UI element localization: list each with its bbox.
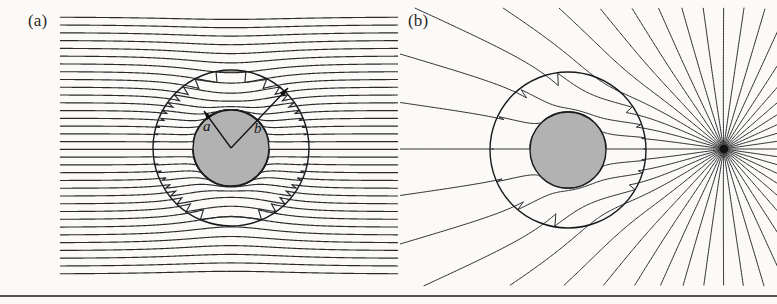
point-charge-dot xyxy=(720,145,728,153)
field-line xyxy=(60,263,397,266)
field-line xyxy=(60,197,397,203)
panel-b-point-charge xyxy=(720,145,728,153)
field-line xyxy=(60,87,397,95)
field-ray xyxy=(604,150,723,285)
field-ray xyxy=(725,150,777,184)
panel-b xyxy=(398,8,777,286)
field-ray xyxy=(724,64,777,148)
field-ray xyxy=(725,114,777,148)
field-line xyxy=(60,64,397,73)
field-ray xyxy=(724,150,777,234)
field-line xyxy=(60,33,397,36)
panel-b-label: (b) xyxy=(408,11,428,31)
field-line xyxy=(60,246,397,251)
field-line xyxy=(60,17,397,19)
field-line xyxy=(60,204,397,212)
outer-radius-label: b xyxy=(254,120,262,137)
field-ray xyxy=(601,9,723,148)
figure-container: (a) (b) a b xyxy=(0,0,777,304)
field-line xyxy=(60,56,397,63)
field-line xyxy=(60,191,397,196)
field-line xyxy=(60,254,397,258)
inner-core-disk xyxy=(530,112,606,188)
field-ray xyxy=(635,150,723,285)
inner-radius-label: a xyxy=(203,118,211,135)
field-line xyxy=(60,227,397,235)
field-line xyxy=(60,103,397,108)
field-line xyxy=(60,271,397,273)
panel-a-label: (a) xyxy=(28,11,47,31)
field-line xyxy=(60,48,397,53)
figure-canvas xyxy=(0,0,777,304)
panel-a xyxy=(60,17,397,274)
field-ray xyxy=(632,9,722,148)
field-line xyxy=(60,25,397,28)
field-line xyxy=(60,237,397,243)
field-line xyxy=(60,95,397,101)
field-line xyxy=(60,41,397,45)
